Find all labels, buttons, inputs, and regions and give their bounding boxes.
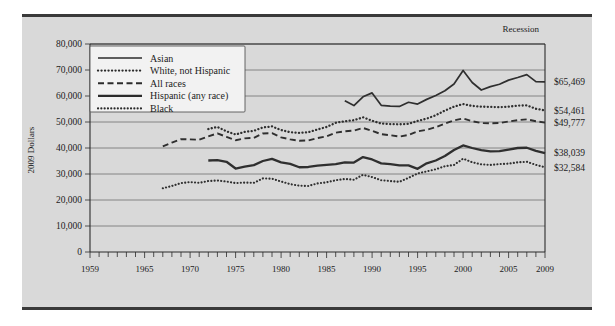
- x-tick-label: 2009: [536, 264, 555, 274]
- end-value-labels-group: $65,469$54,461$49,777$38,039$32,584: [554, 77, 585, 173]
- y-tick-label: 70,000: [56, 65, 82, 75]
- x-tick-label: 1990: [363, 264, 382, 274]
- y-tick-label: 10,000: [56, 221, 82, 231]
- x-tick-label: 1965: [136, 264, 155, 274]
- y-axis-title: 2009 Dollars: [26, 126, 36, 173]
- y-tick-label: 30,000: [56, 169, 82, 179]
- y-tick-labels-group: 010,00020,00030,00040,00050,00060,00070,…: [56, 39, 90, 257]
- x-tick-label: 2005: [500, 264, 519, 274]
- x-tick-label: 1959: [81, 264, 100, 274]
- chart-canvas: 010,00020,00030,00040,00050,00060,00070,…: [0, 0, 615, 326]
- x-tick-label: 1985: [318, 264, 337, 274]
- x-tick-labels-group: 1959196519701975198019851990199520002005…: [81, 264, 555, 274]
- legend-label-all-races: All races: [150, 78, 186, 89]
- legend-label-white-not-hispanic: White, not Hispanic: [150, 65, 231, 76]
- recession-annotation: Recession: [503, 24, 540, 34]
- chart-legend: AsianWhite, not HispanicAll racesHispani…: [90, 46, 245, 114]
- x-tick-label: 1980: [272, 264, 291, 274]
- y-tick-label: 60,000: [56, 91, 82, 101]
- y-tick-label: 0: [77, 247, 82, 257]
- end-label-asian: $65,469: [554, 77, 585, 87]
- x-tick-label: 1995: [409, 264, 428, 274]
- end-label-hispanic-any-race: $38,039: [554, 148, 585, 158]
- y-tick-label: 40,000: [56, 143, 82, 153]
- x-tick-label: 2000: [454, 264, 473, 274]
- series-line-asian: [345, 71, 545, 107]
- legend-label-black: Black: [150, 103, 173, 114]
- legend-label-hispanic-any-race: Hispanic (any race): [150, 90, 228, 102]
- end-label-all-races: $49,777: [554, 118, 585, 128]
- end-label-white-not-hispanic: $54,461: [554, 106, 585, 116]
- end-label-black: $32,584: [554, 163, 585, 173]
- series-line-all-races: [163, 118, 545, 146]
- series-line-white-not-hispanic: [208, 104, 545, 134]
- legend-label-asian: Asian: [150, 53, 173, 64]
- xaxis-ticks-group: [90, 252, 545, 258]
- x-tick-label: 1975: [227, 264, 246, 274]
- y-tick-label: 50,000: [56, 117, 82, 127]
- y-tick-label: 80,000: [56, 39, 82, 49]
- x-tick-label: 1970: [181, 264, 200, 274]
- line-chart-svg: 010,00020,00030,00040,00050,00060,00070,…: [0, 0, 615, 326]
- y-tick-label: 20,000: [56, 195, 82, 205]
